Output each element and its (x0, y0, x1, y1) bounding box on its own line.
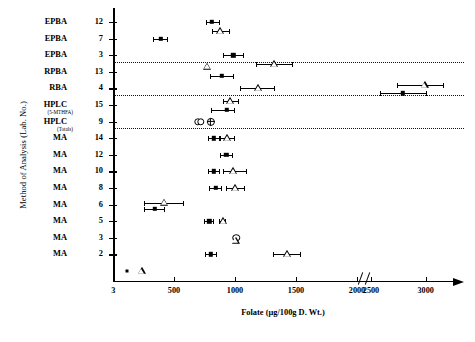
error-bar-cap (220, 153, 221, 158)
marker-triangle (216, 27, 224, 34)
y-axis-lab-number: 7 (99, 34, 103, 43)
y-axis-tick (109, 88, 117, 89)
plot-area: Folate (µg/100g D. Wt.) 3500100015002000… (113, 8, 465, 282)
y-axis-method-name: MA (53, 183, 67, 192)
y-axis-title: Method of Analysis (Lab. No.) (18, 40, 28, 270)
error-bar-cap (219, 169, 220, 174)
marker-circle (197, 118, 204, 125)
error-bar-cap (167, 37, 168, 42)
marker-square (225, 108, 229, 112)
y-axis-lab-number: 12 (95, 17, 103, 26)
error-bar-cap (209, 186, 210, 191)
x-axis-tick-label: 1500 (288, 286, 304, 295)
marker-triangle (219, 217, 227, 224)
marker-dot (126, 270, 129, 273)
error-bar-cap (380, 91, 381, 96)
x-axis-title-text: Folate (µg/100g D. Wt.) (241, 308, 325, 317)
error-bar-cap (183, 201, 184, 206)
error-bar-cap (164, 207, 165, 212)
y-axis-lab-number: 3 (99, 233, 103, 242)
marker-triangle (226, 97, 234, 104)
y-axis-method-name: MA (53, 216, 67, 225)
x-axis-line (113, 281, 453, 282)
error-bar-cap (213, 219, 214, 224)
chart-root: Method of Analysis (Lab. No.) Folate (µg… (0, 0, 475, 342)
axis-break-slash (358, 272, 363, 285)
y-axis-tick (109, 122, 117, 123)
marker-square (401, 91, 405, 95)
y-axis-tick (109, 39, 117, 40)
error-bar-cap (292, 62, 293, 67)
error-bar-cap (274, 86, 275, 91)
y-axis-tick (109, 221, 117, 222)
group-separator (114, 62, 464, 63)
error-bar-cap (233, 74, 234, 79)
y-axis-lab-number: 5 (99, 216, 103, 225)
error-bar (211, 110, 235, 111)
y-axis-tick (109, 188, 117, 189)
y-axis-method-name: EPBA (45, 34, 67, 43)
error-bar-cap (240, 86, 241, 91)
y-axis-tick (109, 22, 117, 23)
error-bar-cap (212, 29, 213, 34)
y-axis-lab-number: 3 (99, 50, 103, 59)
error-bar-cap (229, 29, 230, 34)
y-axis-lab-number: 14 (95, 133, 103, 142)
y-axis-tick (109, 72, 117, 73)
error-bar-cap (153, 37, 154, 42)
error-bar-cap (246, 169, 247, 174)
y-axis-method-name: EPBA (45, 50, 67, 59)
marker-square (224, 153, 228, 157)
marker-square (214, 186, 218, 190)
y-axis-method-name: MA (53, 150, 67, 159)
y-axis-tick (109, 238, 117, 239)
y-axis-method-name: MA (53, 166, 67, 175)
y-axis-lab-number: 4 (99, 83, 103, 92)
marker-square (158, 36, 162, 40)
y-axis-tick (109, 155, 117, 156)
y-axis-lab-number: 15 (95, 100, 103, 109)
y-axis-method-name: RBA (49, 83, 67, 92)
y-axis-lab-number: 13 (95, 67, 103, 76)
marker-triangle (231, 184, 239, 191)
x-axis-title: Folate (µg/100g D. Wt.) (113, 308, 453, 317)
error-bar-cap (232, 153, 233, 158)
error-bar-cap (226, 186, 227, 191)
marker-square (207, 219, 211, 223)
x-axis-arrow-icon (453, 278, 464, 286)
marker-square (211, 136, 215, 140)
marker-triangle (232, 237, 240, 244)
marker-triangle (160, 198, 168, 205)
group-separator (114, 128, 464, 129)
error-bar-cap (223, 53, 224, 58)
y-axis-tick (109, 205, 117, 206)
marker-triangle (138, 267, 146, 274)
y-axis-method-name: MA (53, 133, 67, 142)
x-axis-tick-label: 2500 (363, 286, 379, 295)
x-axis-tick (426, 277, 427, 282)
x-axis-tick-label: 500 (168, 286, 180, 295)
y-axis-lab-number: 9 (99, 117, 103, 126)
error-bar-cap (223, 99, 224, 104)
y-axis-tick (109, 171, 117, 172)
error-bar-cap (216, 252, 217, 257)
error-bar-cap (206, 20, 207, 25)
error-bar-cap (204, 219, 205, 224)
error-bar-cap (238, 99, 239, 104)
error-bar-cap (220, 136, 221, 141)
error-bar-cap (208, 169, 209, 174)
error-bar-cap (234, 136, 235, 141)
marker-circle-cross (207, 118, 215, 126)
y-axis-line (113, 8, 115, 282)
marker-triangle (203, 63, 211, 70)
x-axis-tick (235, 277, 236, 282)
error-bar-cap (397, 83, 398, 88)
x-axis-tick (296, 277, 297, 282)
error-bar-cap (273, 252, 274, 257)
marker-square (231, 53, 235, 57)
y-axis-tick (109, 55, 117, 56)
y-axis-method-name: MA (53, 200, 67, 209)
axis-break-slash (365, 272, 370, 285)
x-axis-tick (371, 277, 372, 282)
error-bar-cap (219, 20, 220, 25)
